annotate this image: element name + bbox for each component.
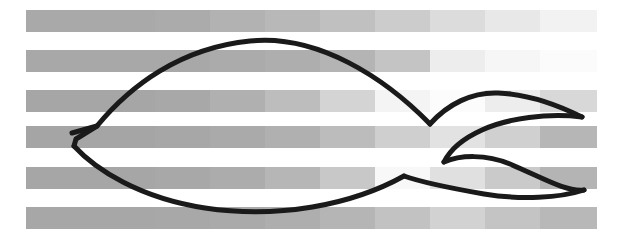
stripe-block [210,167,265,189]
stripe-block [540,50,597,72]
stripe-block [320,207,375,229]
stripe-block [430,50,485,72]
stripe-block [375,50,430,72]
stripe-block [155,126,210,148]
stripe-block [210,10,265,32]
stripe-block [210,126,265,148]
stripe-block [485,167,540,189]
stripe-block [430,207,485,229]
stripe-block [540,10,597,32]
figure-container [0,0,628,251]
bird-stripe-figure [0,0,628,251]
stripe-block [375,126,430,148]
stripe-block [320,167,375,189]
stripe-block [26,207,155,229]
stripe-block [210,90,265,112]
stripe-block [485,50,540,72]
stripe-block [375,207,430,229]
stripe-block [430,10,485,32]
stripe-block [26,50,155,72]
stripe-block [485,126,540,148]
stripe-block [375,10,430,32]
stripe-block [320,10,375,32]
stripe-block [155,90,210,112]
stripe-block [485,10,540,32]
stripe-block [485,207,540,229]
stripe-block [265,126,320,148]
stripe-block [540,207,597,229]
stripe-block [26,10,155,32]
stripe-block [210,50,265,72]
stripe-block [265,50,320,72]
stripe-block [155,207,210,229]
stripe-block [320,126,375,148]
stripe-block [540,167,597,189]
stripe-block [265,167,320,189]
stripe-block [265,10,320,32]
stripe-block [265,90,320,112]
stripe-block [155,167,210,189]
stripe-block [155,10,210,32]
stripe-block [26,90,155,112]
stripe-block [540,126,597,148]
stripe-block [320,90,375,112]
